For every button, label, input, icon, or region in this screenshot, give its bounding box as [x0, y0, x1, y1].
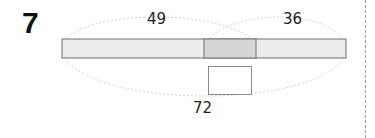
- right-segment-label: 36: [283, 12, 302, 27]
- margin-dotted-line: [365, 0, 366, 138]
- answer-box[interactable]: [208, 66, 252, 95]
- overlap-bar-diagram: [0, 0, 375, 138]
- left-segment-label: 49: [147, 12, 166, 27]
- total-label: 72: [193, 101, 212, 116]
- total-brace-arc: [62, 54, 346, 96]
- overlap-segment: [204, 39, 256, 58]
